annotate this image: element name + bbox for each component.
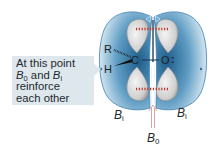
label-b0: B0 [147, 131, 159, 145]
atom-h: H [104, 63, 112, 75]
field-point-right [200, 68, 202, 70]
atom-o: O [161, 54, 170, 66]
atom-c: C [131, 54, 139, 66]
lone-pair: : [171, 53, 175, 65]
label-bi-left: Bi [114, 108, 124, 122]
atom-r: R [104, 43, 112, 55]
label-bi-right: Bi [177, 106, 187, 120]
callout-box: At this point B0 and Bi reinforce each o… [12, 56, 94, 105]
callout-line-3: reinforce [16, 81, 94, 93]
b0-arrow-icon [149, 105, 157, 128]
callout-line-4: each other [16, 93, 94, 105]
